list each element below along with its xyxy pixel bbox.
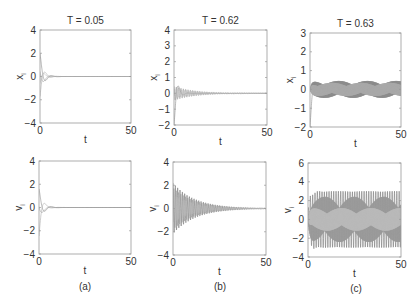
caption-c: (c) [350, 283, 362, 294]
y-tick-label: 1 [164, 72, 170, 83]
x-axis-label: t [84, 265, 87, 276]
chart-c-bottom: −4−20246050tvi [282, 158, 407, 280]
chart-title: T = 0.62 [202, 15, 239, 26]
y-tick-label: 0 [163, 203, 169, 214]
data-line [40, 72, 131, 96]
y-tick-label: −2 [293, 233, 305, 244]
y-tick-label: 1 [300, 65, 306, 76]
y-axis-label: xi [14, 73, 27, 80]
x-tick-label: 50 [261, 127, 273, 138]
x-tick-label: 50 [125, 256, 137, 267]
y-tick-label: −2 [25, 94, 37, 105]
y-tick-label: 2 [298, 195, 304, 206]
y-tick-label: −1 [295, 103, 307, 114]
y-tick-label: 0 [298, 214, 304, 225]
chart-c-top: −2−10123050txiT = 0.63 [284, 18, 407, 149]
x-tick-label: 0 [307, 129, 313, 140]
x-axis-label: t [218, 266, 221, 277]
y-tick-label: 0 [164, 88, 170, 99]
x-tick-label: 50 [125, 125, 137, 136]
y-tick-label: −1 [159, 104, 171, 115]
y-axis-label: vi [282, 206, 295, 213]
chart-title: T = 0.05 [67, 15, 104, 26]
y-tick-label: 2 [30, 48, 36, 59]
y-axis-label: xi [148, 74, 161, 81]
y-tick-label: −4 [25, 118, 37, 129]
chart-b-bottom: −4−2024050tvi [147, 157, 272, 278]
chart-title: T = 0.63 [337, 18, 374, 29]
y-tick-label: 0 [300, 84, 306, 95]
y-tick-label: −4 [24, 249, 36, 260]
x-tick-label: 50 [260, 257, 272, 268]
y-tick-label: −2 [158, 226, 170, 237]
chart-a-top: −4−2024050txiT = 0.05 [14, 15, 137, 145]
y-tick-label: −4 [293, 252, 305, 263]
panel-captions: (a) (b) (c) [79, 281, 362, 294]
y-axis-label: vi [147, 205, 160, 212]
y-tick-label: 2 [163, 180, 169, 191]
caption-b: (b) [214, 281, 226, 292]
x-axis-label: t [354, 138, 357, 149]
axes-box [174, 30, 267, 125]
y-tick-label: 2 [300, 46, 306, 57]
series-group [173, 183, 266, 232]
y-tick-label: 4 [164, 25, 170, 36]
caption-a: (a) [79, 281, 91, 292]
figure: −4−2024050txiT = 0.05−2−101234050txiT = … [0, 0, 418, 306]
data-line [40, 73, 131, 83]
series-group [308, 191, 401, 248]
y-tick-label: 4 [298, 176, 304, 187]
x-tick-label: 0 [305, 259, 311, 270]
data-line [39, 203, 131, 236]
y-tick-label: 0 [29, 202, 35, 213]
series-group [174, 86, 267, 125]
y-tick-label: 0 [30, 71, 36, 82]
y-tick-label: −2 [295, 122, 307, 133]
series-group [310, 81, 401, 127]
y-tick-label: 2 [164, 56, 170, 67]
y-tick-label: 2 [29, 179, 35, 190]
x-tick-label: 50 [395, 259, 407, 270]
series-group [40, 53, 131, 96]
y-tick-label: 6 [298, 158, 304, 169]
y-tick-label: 4 [30, 25, 36, 36]
y-tick-label: −2 [159, 120, 171, 131]
x-axis-label: t [84, 134, 87, 145]
chart-a-bottom: −4−2024050tvi [13, 156, 137, 277]
x-tick-label: 0 [171, 127, 177, 138]
series-group [39, 189, 131, 236]
y-tick-label: 4 [163, 157, 169, 168]
y-tick-label: −2 [24, 225, 36, 236]
y-tick-label: −4 [158, 250, 170, 261]
y-axis-label: vi [13, 204, 26, 211]
x-tick-label: 0 [36, 256, 42, 267]
x-tick-label: 50 [395, 129, 407, 140]
x-axis-label: t [219, 136, 222, 147]
y-axis-label: xi [284, 76, 297, 83]
panels: −4−2024050txiT = 0.05−2−101234050txiT = … [13, 15, 407, 279]
x-tick-label: 0 [170, 257, 176, 268]
x-axis-label: t [353, 268, 356, 279]
data-line [174, 86, 267, 125]
chart-b-top: −2−101234050txiT = 0.62 [148, 15, 273, 147]
y-tick-label: 3 [164, 40, 170, 51]
y-tick-label: 3 [300, 28, 306, 39]
axes-box [310, 33, 401, 127]
y-tick-label: 4 [29, 156, 35, 167]
x-tick-label: 0 [37, 125, 43, 136]
